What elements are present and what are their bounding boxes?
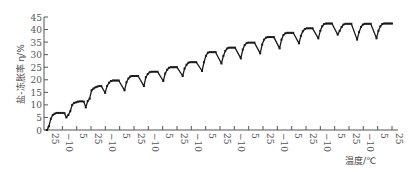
y-tick-label: 40 (31, 25, 43, 35)
data-point-marker (265, 37, 267, 39)
data-point-marker (118, 80, 120, 82)
y-tick-label: 0 (36, 126, 42, 136)
y-tick-label: 5 (36, 113, 42, 123)
y-tick-label: 15 (31, 88, 43, 98)
data-point-marker (288, 32, 290, 34)
data-point-marker (387, 23, 389, 25)
data-point-marker (145, 76, 147, 78)
data-point-marker (83, 101, 85, 103)
data-point-marker (100, 85, 102, 87)
data-point-marker (246, 42, 248, 44)
y-tick-label: 35 (31, 38, 43, 48)
data-point-marker (344, 23, 346, 25)
salt-frost-heave-chart: 051015202530354045 25−10525−10525−10525−… (0, 0, 410, 172)
data-point-marker (155, 71, 157, 73)
data-point-marker (65, 116, 67, 118)
data-point-marker (189, 61, 191, 63)
x-tick-label: −10 (107, 133, 117, 152)
data-point-marker (230, 47, 232, 49)
data-point-marker (162, 80, 164, 82)
data-series (46, 23, 393, 131)
data-point-marker (308, 27, 310, 29)
data-point-marker (242, 49, 244, 51)
x-tick-label: 25 (222, 133, 232, 145)
data-point-marker (81, 100, 83, 102)
data-point-marker (317, 37, 319, 39)
data-point-marker (63, 112, 65, 114)
data-point-marker (149, 71, 151, 73)
data-point-marker (164, 73, 166, 75)
data-point-marker (385, 23, 387, 25)
data-point-marker (116, 80, 118, 82)
data-point-marker (91, 89, 93, 91)
data-point-marker (94, 86, 96, 88)
data-point-marker (52, 114, 54, 116)
data-point-marker (48, 125, 50, 127)
data-point-marker (69, 110, 71, 112)
data-point-marker (89, 98, 91, 100)
x-tick-label: 5 (164, 133, 174, 139)
data-point-marker (377, 30, 379, 32)
x-tick-label: −10 (64, 133, 74, 152)
x-tick-label: 5 (293, 133, 303, 139)
data-point-marker (306, 27, 308, 29)
data-point-marker (279, 47, 281, 49)
data-point-marker (383, 23, 385, 25)
x-tick-label: 25 (351, 133, 361, 145)
data-point-marker (125, 81, 127, 83)
data-point-marker (203, 61, 205, 63)
x-tick-label: −10 (365, 133, 375, 152)
data-point-marker (207, 52, 209, 54)
data-point-marker (77, 101, 79, 103)
data-point-marker (323, 23, 325, 25)
data-point-marker (360, 26, 362, 28)
x-axis-title: 温度/℃ (345, 155, 376, 166)
data-point-marker (205, 55, 207, 57)
x-tick-label: 25 (308, 133, 318, 145)
data-point-marker (343, 24, 345, 26)
data-point-marker (370, 23, 372, 25)
y-tick-label: 45 (31, 13, 43, 23)
data-point-marker (226, 47, 228, 49)
x-tick-label: 5 (207, 133, 217, 139)
data-point-marker (71, 104, 73, 106)
data-point-marker (389, 23, 391, 25)
data-point-marker (215, 51, 217, 53)
x-tick-label: 25 (93, 133, 103, 145)
data-point-marker (251, 42, 253, 44)
data-point-marker (379, 25, 381, 27)
data-point-marker (302, 30, 304, 32)
y-tick-label: 10 (31, 100, 43, 110)
data-point-marker (58, 112, 60, 114)
data-point-marker (350, 23, 352, 25)
data-point-marker (232, 47, 234, 49)
data-point-marker (114, 80, 116, 82)
data-point-marker (60, 112, 62, 114)
y-tick-label: 20 (31, 75, 43, 85)
data-point-marker (137, 75, 139, 77)
data-point-marker (300, 35, 302, 37)
data-point-marker (220, 62, 222, 64)
data-point-marker (211, 51, 213, 53)
x-tick-label: 25 (136, 133, 146, 145)
data-point-marker (73, 102, 75, 104)
x-tick-label: −10 (193, 133, 203, 152)
data-point-marker (362, 24, 364, 26)
data-point-marker (79, 100, 81, 102)
data-point-marker (267, 36, 269, 38)
x-tick-label: −10 (322, 133, 332, 152)
data-point-marker (312, 27, 314, 29)
data-point-marker (131, 75, 133, 77)
data-point-marker (201, 70, 203, 72)
data-point-marker (124, 89, 126, 91)
data-point-marker (106, 85, 108, 87)
data-point-marker (112, 80, 114, 82)
data-point-marker (339, 30, 341, 32)
data-point-marker (172, 66, 174, 68)
data-point-marker (222, 55, 224, 57)
data-point-marker (298, 42, 300, 44)
data-point-marker (364, 23, 366, 25)
data-point-marker (98, 85, 100, 87)
data-point-marker (269, 36, 271, 38)
data-point-marker (248, 42, 250, 44)
